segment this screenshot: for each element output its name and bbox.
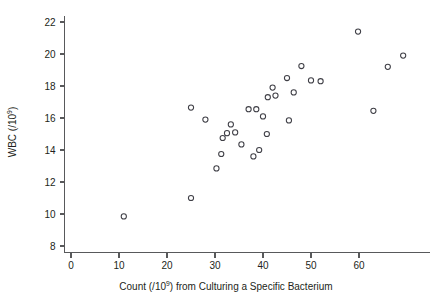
y-axis: 810121416182022	[44, 16, 64, 253]
data-point	[299, 63, 304, 68]
y-tick-label: 14	[44, 145, 56, 156]
data-point	[121, 214, 126, 219]
data-point	[228, 122, 233, 127]
x-tick-label: 50	[305, 260, 317, 271]
data-point	[291, 90, 296, 95]
data-point	[270, 85, 275, 90]
y-axis-title: WBC (/109)	[6, 107, 18, 157]
data-point	[284, 75, 289, 80]
y-tick-label: 20	[44, 49, 56, 60]
x-tick-label: 0	[68, 260, 74, 271]
data-point	[233, 130, 238, 135]
data-point	[260, 114, 265, 119]
data-point	[224, 131, 229, 136]
plot-canvas: 810121416182022 0102030405060 WBC (/109)…	[0, 0, 436, 302]
data-point	[188, 195, 193, 200]
scatter-chart: 810121416182022 0102030405060 WBC (/109)…	[0, 0, 436, 302]
y-tick-label: 18	[44, 81, 56, 92]
x-axis-title: Count (/109) from Culturing a Specific B…	[119, 280, 332, 292]
data-point	[251, 154, 256, 159]
data-points	[121, 29, 406, 219]
y-tick-label: 22	[44, 17, 56, 28]
data-point	[265, 95, 270, 100]
data-point	[273, 93, 278, 98]
data-point	[220, 135, 225, 140]
x-tick-label: 40	[257, 260, 269, 271]
data-point	[239, 142, 244, 147]
data-point	[371, 108, 376, 113]
data-point	[318, 79, 323, 84]
data-point	[203, 117, 208, 122]
data-point	[286, 118, 291, 123]
data-point	[246, 107, 251, 112]
data-point	[257, 147, 262, 152]
data-point	[254, 107, 259, 112]
y-tick-label: 8	[50, 241, 56, 252]
y-tick-label: 16	[44, 113, 56, 124]
data-point	[401, 53, 406, 58]
data-point	[264, 131, 269, 136]
x-tick-label: 10	[113, 260, 125, 271]
data-point	[308, 78, 313, 83]
data-point	[355, 29, 360, 34]
x-axis: 0102030405060	[65, 253, 431, 271]
x-tick-label: 20	[161, 260, 173, 271]
y-tick-label: 12	[44, 177, 56, 188]
data-point	[219, 151, 224, 156]
x-tick-label: 30	[209, 260, 221, 271]
x-tick-label: 60	[353, 260, 365, 271]
data-point	[214, 166, 219, 171]
y-tick-label: 10	[44, 209, 56, 220]
data-point	[188, 105, 193, 110]
data-point	[385, 64, 390, 69]
